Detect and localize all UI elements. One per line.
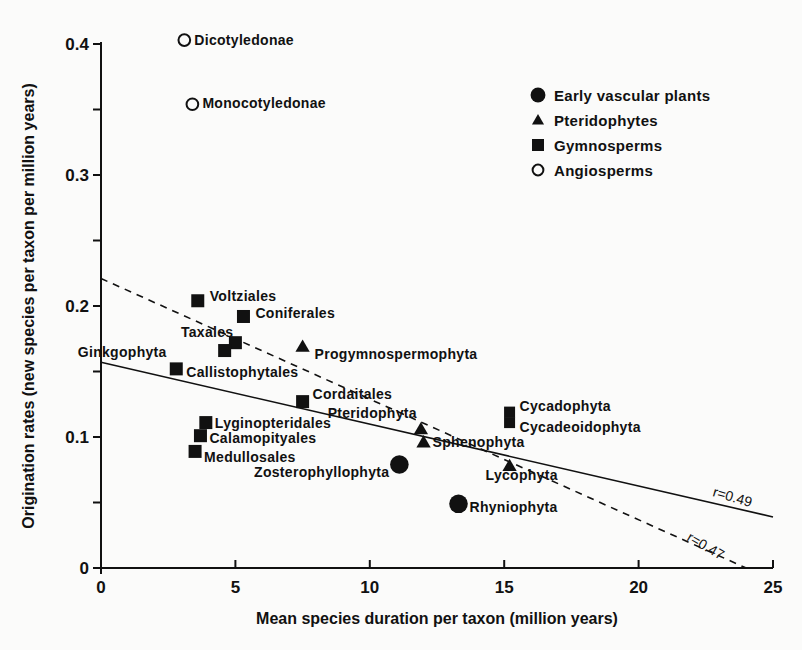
dashed-regression-line	[101, 278, 746, 568]
legend-label: Angiosperms	[554, 162, 653, 179]
y-axis-title: Origination rates (new species per taxon…	[20, 83, 37, 528]
filled-circle-marker-icon	[449, 495, 468, 514]
x-tick-label: 25	[764, 578, 783, 597]
legend-label: Early vascular plants	[554, 87, 710, 104]
point-label: Sphenophyta	[433, 434, 525, 450]
x-tick-label: 5	[231, 578, 240, 597]
point-label: Medullosales	[204, 449, 296, 465]
y-tick-label: 0.2	[65, 297, 89, 316]
filled-triangle-marker-icon	[295, 339, 309, 351]
filled-square-marker-icon	[170, 362, 183, 375]
y-tick-label: 0.1	[65, 428, 89, 447]
filled-circle-marker-icon	[390, 455, 409, 474]
filled-square-marker-icon	[189, 445, 202, 458]
open-circle-marker-icon	[178, 34, 190, 46]
point-label: Cycadophyta	[520, 398, 611, 414]
legend-item: Gymnosperms	[532, 137, 662, 154]
y-tick-label: 0	[80, 559, 89, 578]
x-axis-title: Mean species duration per taxon (million…	[256, 610, 618, 627]
open-circle-legend-icon	[533, 165, 544, 176]
point-label: Cycadeoidophyta	[520, 419, 641, 435]
filled-square-marker-icon	[504, 407, 515, 418]
point-label: Calamopityales	[209, 430, 316, 446]
x-tick-label: 15	[495, 578, 514, 597]
point-label: Rhyniophyta	[470, 499, 558, 515]
point-label: Progymnospermophyta	[315, 346, 478, 362]
filled-square-marker-icon	[296, 395, 309, 408]
point-label: Dicotyledonae	[194, 32, 294, 48]
filled-triangle-legend-icon	[532, 114, 544, 124]
filled-square-legend-icon	[532, 139, 544, 151]
filled-square-marker-icon	[199, 416, 212, 429]
solid-line-r-label: r=0.49	[711, 484, 754, 510]
legend-item: Early vascular plants	[531, 87, 711, 104]
legend-item: Pteridophytes	[532, 112, 658, 129]
axes: 051015202500.10.20.30.4	[65, 35, 782, 597]
point-label: Zosterophyllophyta	[254, 464, 389, 480]
y-tick-label: 0.4	[65, 35, 89, 54]
point-label: Voltziales	[210, 288, 277, 304]
filled-square-marker-icon	[504, 417, 515, 428]
legend: Early vascular plantsPteridophytesGymnos…	[531, 87, 711, 179]
scatter-chart: 051015202500.10.20.30.4 r=0.49r=0.47 Zos…	[0, 0, 802, 650]
point-label: Cordaitales	[313, 386, 393, 402]
x-tick-label: 20	[629, 578, 648, 597]
legend-item: Angiosperms	[533, 162, 654, 179]
filled-square-marker-icon	[191, 294, 204, 307]
open-circle-marker-icon	[187, 98, 199, 110]
point-label: Taxales	[181, 324, 233, 340]
point-label: Pteridophyta	[328, 405, 417, 421]
filled-square-marker-icon	[218, 344, 231, 357]
point-label: Monocotyledonae	[202, 95, 326, 111]
legend-label: Gymnosperms	[554, 137, 662, 154]
series-angiosperms: DicotyledonaeMonocotyledonae	[178, 32, 325, 111]
x-tick-label: 0	[96, 578, 105, 597]
legend-label: Pteridophytes	[554, 112, 658, 129]
series-pteridophytes: ProgymnospermophytaPteridophytaSphenophy…	[295, 339, 557, 482]
dashed-line-r-label: r=0.47	[684, 529, 727, 563]
point-label: Coniferales	[255, 305, 335, 321]
point-label: Lyginopteridales	[215, 415, 331, 431]
point-label: Ginkgophyta	[78, 344, 167, 360]
data-points: ZosterophyllophytaRhyniophytaProgymnospe…	[78, 32, 641, 515]
point-label: Callistophytales	[186, 364, 298, 380]
y-tick-label: 0.3	[65, 166, 89, 185]
filled-square-marker-icon	[194, 429, 207, 442]
x-tick-label: 10	[360, 578, 379, 597]
filled-square-marker-icon	[237, 310, 250, 323]
point-label: Lycophyta	[486, 467, 558, 483]
filled-circle-legend-icon	[531, 88, 546, 103]
